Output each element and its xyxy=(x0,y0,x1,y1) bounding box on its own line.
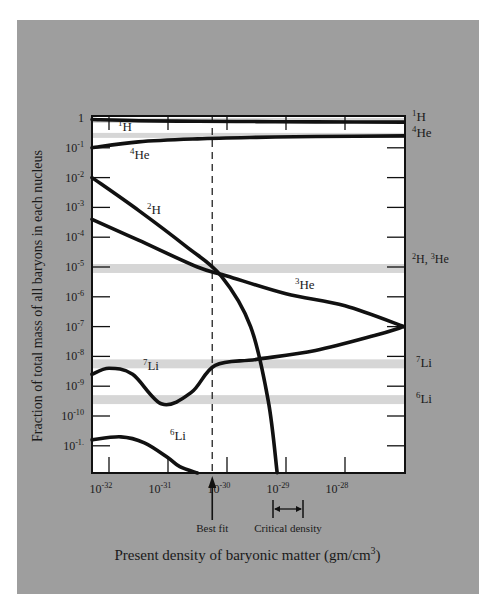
x-axis-label-close: ) xyxy=(376,547,381,563)
y-tick-label: 10-9 xyxy=(65,378,84,393)
x-tick-label: 10-31 xyxy=(149,481,172,496)
y-tick-label: 10-2 xyxy=(65,170,84,185)
y-axis-label: Fraction of total mass of all baryons in… xyxy=(30,150,46,442)
y-tick-label: 10-4 xyxy=(65,229,84,244)
x-tick-label: 10-32 xyxy=(90,481,113,496)
x-tick-label: 10-29 xyxy=(267,481,290,496)
x-axis-label-text: Present density of baryonic matter (gm/c… xyxy=(114,547,370,563)
band-label-4he: 4He xyxy=(412,124,432,140)
y-tick-label: 10-3 xyxy=(65,199,84,214)
band-label-7li: 7Li xyxy=(416,354,432,370)
arrow-left-icon xyxy=(274,506,280,512)
best-fit-label: Best fit xyxy=(196,522,228,534)
y-tick-label: 10-6 xyxy=(65,289,84,304)
x-tick-label: 10-28 xyxy=(326,481,349,496)
y-tick-label: 1 xyxy=(78,111,84,125)
y-tick-label: 10-1. xyxy=(63,438,84,453)
band-2h-3he xyxy=(92,264,405,273)
critical-density-label: Critical density xyxy=(254,522,322,534)
band-6li xyxy=(92,395,405,404)
y-tick-label: 10-5 xyxy=(65,259,84,274)
band-label-1h: 1H xyxy=(412,108,426,124)
plot-area xyxy=(92,116,405,473)
x-axis-label: Present density of baryonic matter (gm/c… xyxy=(0,545,495,564)
y-tick-label: 10-7 xyxy=(65,319,84,334)
abundance-chart: 110-110-210-310-410-510-610-710-810-910-… xyxy=(0,0,495,610)
band-label-2h-3he: 2H, 3He xyxy=(412,252,449,267)
y-axis-label-container: Fraction of total mass of all baryons in… xyxy=(24,120,52,472)
band-label-6li: 6Li xyxy=(416,390,432,406)
y-tick-label: 10-8 xyxy=(65,348,84,363)
y-tick-label: 10-10 xyxy=(61,408,84,423)
y-tick-label: 10-1 xyxy=(65,140,84,155)
arrow-right-icon xyxy=(296,506,302,512)
